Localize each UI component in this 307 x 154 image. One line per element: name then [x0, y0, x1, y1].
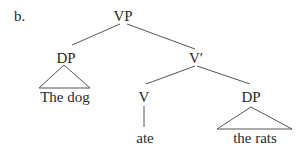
node-vp: VP [113, 9, 132, 24]
example-label: b. [14, 9, 25, 24]
branch-vp-dp [72, 24, 120, 45]
triangle-complement-dp [217, 107, 292, 129]
node-dp-complement: DP [241, 90, 260, 105]
node-v: V [139, 90, 150, 105]
terminal-the-dog: The dog [40, 90, 90, 105]
branch-vbar-dp [197, 66, 250, 84]
syntax-tree-diagram: b. VP DP The dog V′ V ate DP the rats [0, 0, 307, 154]
terminal-ate: ate [136, 131, 153, 146]
node-dp-spec: DP [56, 51, 75, 66]
branch-vp-vbar [127, 24, 195, 49]
triangle-spec-dp [39, 65, 90, 88]
node-v-bar: V′ [189, 51, 203, 66]
branch-vbar-v [146, 66, 195, 84]
terminal-the-rats: the rats [233, 131, 277, 146]
